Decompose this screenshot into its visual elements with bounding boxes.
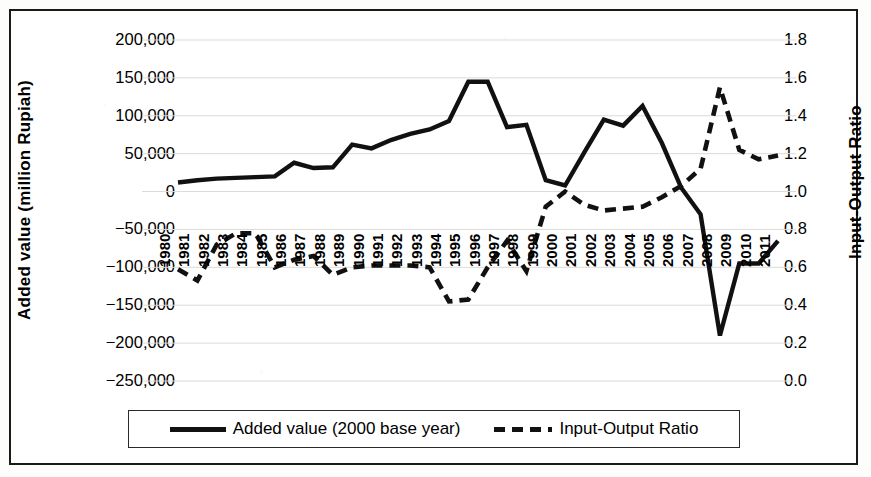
chart-legend: Added value (2000 base year) Input-Outpu… <box>128 410 740 448</box>
legend-swatch-solid-icon <box>170 427 226 432</box>
x-axis-tick: 1984 <box>234 234 249 267</box>
x-axis-tick: 2008 <box>699 234 714 267</box>
x-axis-tick: 1989 <box>331 234 346 267</box>
x-axis-tick: 1997 <box>486 234 501 267</box>
x-axis-tick: 2001 <box>563 234 578 267</box>
x-axis-tick: 2009 <box>718 234 733 267</box>
right-axis-tick: 1.4 <box>784 107 807 124</box>
x-axis-tick: 1985 <box>254 234 269 267</box>
x-axis-tick: 1995 <box>447 234 462 267</box>
x-axis-tick: 1991 <box>370 234 385 267</box>
x-axis-tick: 1983 <box>215 234 230 267</box>
x-axis-tick: 1988 <box>312 234 327 267</box>
legend-label-added-value: Added value (2000 base year) <box>233 419 461 439</box>
x-axis-tick: 2005 <box>641 234 656 267</box>
x-axis-tick: 2010 <box>738 234 753 267</box>
legend-swatch-dashed-icon <box>494 427 552 432</box>
right-axis-tick: 0.6 <box>784 258 807 275</box>
x-axis-tick: 1982 <box>196 234 211 267</box>
left-axis-tick: 200,000 <box>115 31 175 48</box>
x-axis-tick: 1980 <box>157 234 172 267</box>
x-axis-tick: 2007 <box>680 234 695 267</box>
x-axis-tick-labels: 1980198119821983198419851986198719881989… <box>178 197 778 267</box>
x-axis-tick: 1981 <box>176 234 191 267</box>
left-axis-tick: −150,000 <box>106 296 175 313</box>
x-axis-tick: 1986 <box>273 234 288 267</box>
right-axis-tick: 0.4 <box>784 296 807 313</box>
right-axis-tick-labels: 1.81.61.41.21.00.80.60.40.20.0 <box>784 0 854 477</box>
x-axis-tick: 2006 <box>660 234 675 267</box>
x-axis-tick: 1996 <box>467 234 482 267</box>
legend-item-input-output-ratio: Input-Output Ratio <box>494 419 698 439</box>
x-axis-tick: 1992 <box>389 234 404 267</box>
x-axis-tick: 1998 <box>505 234 520 267</box>
left-axis-tick: 0 <box>166 183 175 200</box>
right-axis-tick: 1.2 <box>784 145 807 162</box>
left-axis-title: Added value (million Rupiah) <box>15 20 35 380</box>
legend-item-added-value: Added value (2000 base year) <box>170 419 461 439</box>
left-axis-tick: 150,000 <box>115 69 175 86</box>
x-axis-tick: 1987 <box>292 234 307 267</box>
legend-label-input-output-ratio: Input-Output Ratio <box>559 419 698 439</box>
x-axis-tick: 2004 <box>622 234 637 267</box>
x-axis-tick: 1993 <box>409 234 424 267</box>
x-axis-tick: 2003 <box>602 234 617 267</box>
x-axis-tick: 2000 <box>544 234 559 267</box>
right-axis-tick: 1.0 <box>784 183 807 200</box>
left-axis-tick: 50,000 <box>125 145 175 162</box>
right-axis-tick: 0.0 <box>784 372 807 389</box>
left-axis-tick: −200,000 <box>106 334 175 351</box>
x-axis-tick: 1990 <box>351 234 366 267</box>
right-axis-tick: 0.2 <box>784 334 807 351</box>
x-axis-tick: 2002 <box>583 234 598 267</box>
right-axis-tick: 1.6 <box>784 69 807 86</box>
left-axis-tick: −250,000 <box>106 372 175 389</box>
right-axis-tick: 0.8 <box>784 220 807 237</box>
x-axis-tick: 1999 <box>525 234 540 267</box>
x-axis-tick: 2011 <box>757 234 772 267</box>
right-axis-tick: 1.8 <box>784 31 807 48</box>
chart-figure: Added value (million Rupiah) Input-Outpu… <box>0 0 871 477</box>
left-axis-tick: 100,000 <box>115 107 175 124</box>
x-axis-tick: 1994 <box>428 234 443 267</box>
